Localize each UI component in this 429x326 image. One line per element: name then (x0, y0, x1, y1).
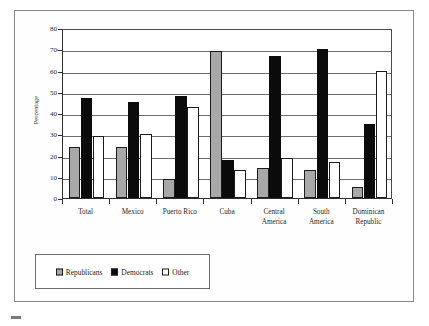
x-axis-tick-mark (251, 199, 252, 204)
bar-other-mexico (140, 134, 152, 198)
y-axis-tick-label: 10 (31, 174, 57, 182)
legend-item-republicans[interactable]: Republicans (56, 267, 103, 276)
bar-other-central-america (281, 158, 293, 198)
x-axis-category-label: SouthAmerica (298, 207, 345, 227)
y-axis-tick-label: 70 (31, 46, 57, 54)
legend-label: Democrats (121, 267, 153, 276)
page-scan-artifact (11, 316, 21, 319)
bar-other-south-america (329, 162, 341, 198)
x-axis-category-label: DominicanRepublic (345, 207, 392, 227)
bar-republicans-puerto-rico (163, 179, 175, 198)
legend-label: Republicans (66, 267, 103, 276)
chart-legend: RepublicansDemocratsOther (35, 254, 210, 289)
x-axis-category-label: Mexico (109, 207, 156, 217)
bar-group (63, 30, 110, 198)
bar-other-puerto-rico (187, 107, 199, 198)
x-axis-category-label-line: Republic (345, 217, 392, 227)
y-axis-tick-label: 40 (31, 110, 57, 118)
bar-republicans-cuba (210, 51, 222, 198)
x-axis-tick-mark (156, 199, 157, 204)
bar-group (299, 30, 346, 198)
x-axis-category-label-line: Cuba (203, 207, 250, 217)
legend-items: RepublicansDemocratsOther (36, 267, 209, 276)
bar-democrats-cuba (222, 160, 234, 198)
x-axis-category-label-line: South (298, 207, 345, 217)
legend-item-other[interactable]: Other (162, 267, 189, 276)
x-axis-tick-mark (62, 199, 63, 204)
bar-democrats-central-america (269, 56, 281, 198)
y-axis-tick-label: 80 (31, 25, 57, 33)
bar-republicans-total (69, 147, 81, 198)
legend-swatch-icon (162, 268, 169, 275)
x-axis-tick-mark (203, 199, 204, 204)
bar-group (346, 30, 393, 198)
x-axis-category-label-line: Mexico (109, 207, 156, 217)
x-axis-category-label: Cuba (203, 207, 250, 217)
figure-frame: Percentage 01020304050607080 TotalMexico… (14, 10, 414, 302)
bar-democrats-mexico (128, 102, 140, 198)
legend-swatch-icon (111, 268, 118, 275)
bar-democrats-total (81, 98, 93, 198)
x-axis-category-label: CentralAmerica (251, 207, 298, 227)
legend-label: Other (172, 267, 189, 276)
x-axis-tick-mark (392, 199, 393, 204)
bar-group (204, 30, 251, 198)
legend-item-democrats[interactable]: Democrats (111, 267, 153, 276)
y-axis-tick-label: 30 (31, 131, 57, 139)
x-axis-category-label: Puerto Rico (156, 207, 203, 217)
bar-republicans-dominican-republic (352, 187, 364, 198)
bar-group (252, 30, 299, 198)
bar-other-cuba (234, 170, 246, 198)
legend-swatch-icon (56, 268, 63, 275)
bar-group (110, 30, 157, 198)
x-axis-tick-mark (345, 199, 346, 204)
plot-area (62, 29, 392, 199)
bar-democrats-dominican-republic (364, 124, 376, 198)
plot-wrapper: Percentage 01020304050607080 TotalMexico… (15, 11, 415, 303)
bar-democrats-puerto-rico (175, 96, 187, 198)
y-axis-tick-label: 20 (31, 153, 57, 161)
x-axis-category-label-line: Total (62, 207, 109, 217)
y-axis-tick-label: 50 (31, 89, 57, 97)
x-axis-category-label-line: Dominican (345, 207, 392, 217)
bar-other-total (93, 136, 105, 198)
x-axis-category-label-line: America (251, 217, 298, 227)
scan-speck-artifact (56, 49, 58, 51)
x-axis-category-label-line: Central (251, 207, 298, 217)
y-axis-tick-label: 0 (31, 195, 57, 203)
y-axis-tick-label: 60 (31, 68, 57, 76)
bar-republicans-central-america (257, 168, 269, 198)
x-axis-category-label-line: America (298, 217, 345, 227)
x-axis-category-label: Total (62, 207, 109, 217)
x-axis-category-label-line: Puerto Rico (156, 207, 203, 217)
bar-democrats-south-america (317, 49, 329, 198)
bar-group (157, 30, 204, 198)
x-axis-tick-mark (298, 199, 299, 204)
bar-other-dominican-republic (376, 71, 388, 199)
x-axis-tick-mark (109, 199, 110, 204)
bar-republicans-south-america (304, 170, 316, 198)
bar-republicans-mexico (116, 147, 128, 198)
